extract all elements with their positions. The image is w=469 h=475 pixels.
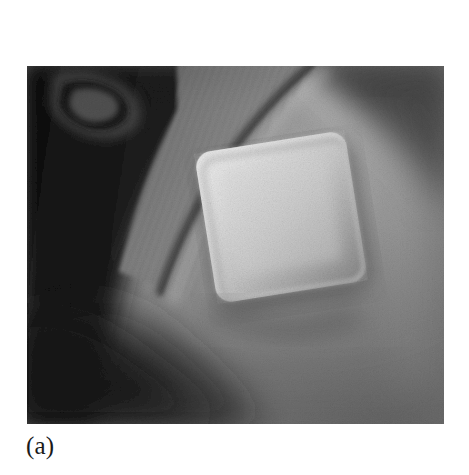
- patch-inner-panel: [221, 155, 342, 276]
- figure-caption: (a): [26, 431, 54, 461]
- photograph: [27, 66, 444, 424]
- figure-container: (a): [0, 0, 469, 475]
- photo-canvas: [27, 66, 444, 424]
- adhesive-patch: [194, 130, 371, 312]
